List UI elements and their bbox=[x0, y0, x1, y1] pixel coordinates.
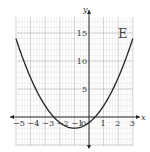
y-tick-label: 5 bbox=[82, 85, 87, 94]
parabola-chart: −5−4−3−2−10123 51015 x y E bbox=[0, 0, 150, 152]
x-tick-label: −5 bbox=[13, 119, 25, 128]
x-tick-label: −4 bbox=[28, 119, 40, 128]
x-tick-label: −3 bbox=[42, 119, 54, 128]
x-tick-labels: −5−4−3−2−10123 bbox=[13, 119, 135, 128]
x-tick-label: 0 bbox=[81, 119, 86, 128]
panel-label: E bbox=[118, 26, 128, 41]
x-tick-label: 3 bbox=[130, 119, 135, 128]
y-axis-label: y bbox=[82, 5, 88, 14]
x-axis-label: x bbox=[141, 113, 146, 122]
x-tick-label: 2 bbox=[115, 119, 120, 128]
y-tick-label: 10 bbox=[77, 57, 87, 66]
x-tick-label: 1 bbox=[101, 119, 106, 128]
y-tick-label: 15 bbox=[77, 29, 87, 38]
x-tick-label: −2 bbox=[57, 119, 69, 128]
